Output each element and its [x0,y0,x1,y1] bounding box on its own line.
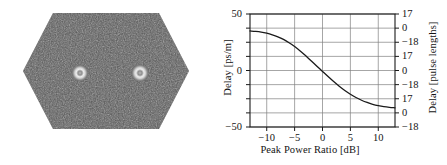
right-plot-panel: Delay [ps/m] Delay [pulse lengths] Peak … [215,0,447,165]
left-image-panel [0,0,215,165]
noise-overlay-dark [21,11,191,131]
y-tick-label-right-0: 17 [402,8,432,19]
x-tick-label-4: 10 [363,132,393,143]
ticks-right [395,14,399,127]
bright-spot-left [71,64,89,82]
y-tick-label-right-8: −18 [402,121,432,132]
y-tick-label-right-2: −18 [402,36,432,47]
x-tick-label-3: 5 [335,132,365,143]
y-tick-label-left-2: −50 [212,121,242,132]
bright-spot-right [131,64,150,83]
y-tick-label-right-7: 0 [402,107,432,118]
y-tick-label-right-5: −18 [402,79,432,90]
figure: Delay [ps/m] Delay [pulse lengths] Peak … [0,0,447,165]
y-tick-label-right-6: 17 [402,93,432,104]
ticks-bottom [267,127,379,131]
hexagon-svg [21,11,191,131]
x-tick-label-1: −5 [280,132,310,143]
x-tick-label-0: −10 [252,132,282,143]
y-tick-label-left-0: 50 [212,8,242,19]
y-tick-label-right-4: 0 [402,65,432,76]
x-tick-label-2: 0 [308,132,338,143]
y-tick-label-left-1: 0 [212,65,242,76]
hexagon-noise-image [21,11,191,131]
y-tick-label-right-3: 17 [402,50,432,61]
y-tick-label-right-1: 0 [402,22,432,33]
